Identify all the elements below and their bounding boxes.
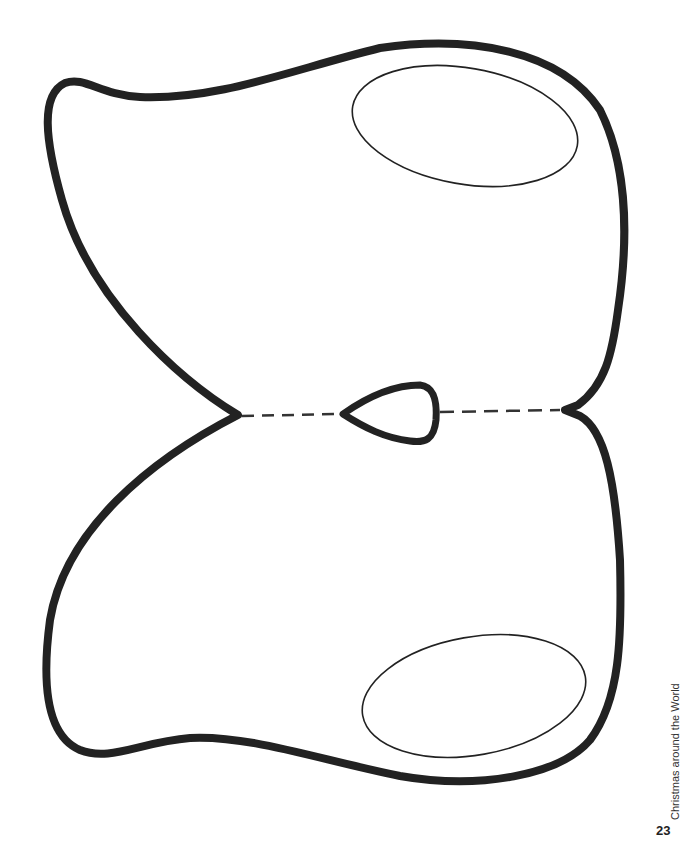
page-footer: Christmas around the World 23 <box>655 690 683 849</box>
eye-cutout-top <box>343 49 588 203</box>
page-number: 23 <box>656 823 670 838</box>
eye-cutout-bottom <box>352 618 595 773</box>
nose-cutout <box>343 385 436 442</box>
book-title: Christmas around the World <box>669 690 681 820</box>
mask-template <box>0 0 684 849</box>
mask-outline <box>46 44 624 782</box>
fold-line-right <box>440 410 560 412</box>
fold-line-left <box>242 414 335 416</box>
